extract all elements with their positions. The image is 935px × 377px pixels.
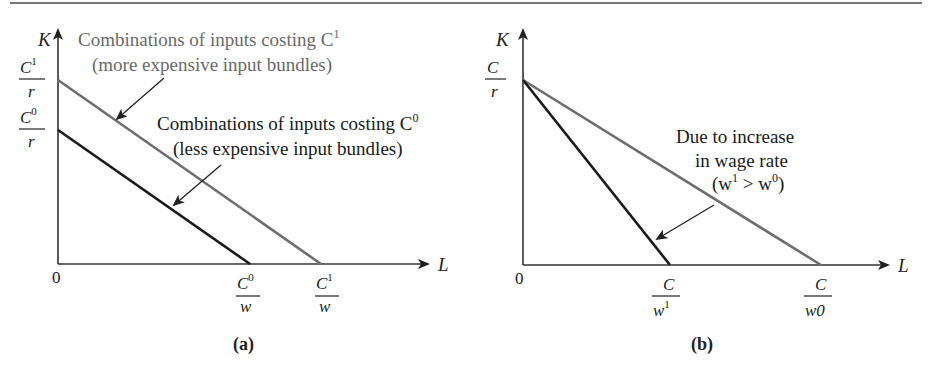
x-tick-c-over-w1: C w1 [652,275,680,320]
annotation-c1: Combinations of inputs costing C1 (more … [78,27,339,76]
svg-text:Combinations of inputs costing: Combinations of inputs costing C0 [157,111,418,134]
x-tick-c-over-w0: C w0 [804,275,832,320]
svg-text:w0: w0 [805,301,825,320]
x-axis-label: L [897,255,909,276]
svg-text:C: C [815,275,827,294]
svg-text:w: w [240,297,252,316]
svg-text:r: r [491,82,498,101]
svg-text:(w1 > w0): (w1 > w0) [712,171,784,195]
svg-text:(more expensive input bundles): (more expensive input bundles) [92,54,332,76]
svg-text:C: C [663,275,675,294]
panel-caption-b: (b) [691,334,713,355]
x-axis-label: L [437,254,449,275]
y-tick-c1-over-r: C1 r [19,55,45,101]
svg-text:C0: C0 [237,271,254,293]
svg-text:C1: C1 [20,55,37,77]
svg-text:C: C [487,58,499,77]
svg-text:w1: w1 [653,298,670,320]
annotation-c0-pointer-arrow [174,165,221,205]
x-tick-c0-over-w: C0 w [236,271,260,316]
origin-label: 0 [515,269,524,288]
origin-label: 0 [52,268,61,287]
annotation-c0: Combinations of inputs costing C0 (less … [157,111,418,160]
svg-text:in wage rate: in wage rate [695,150,788,171]
panel-caption-a: (a) [233,334,254,355]
svg-text:w: w [319,297,331,316]
isocost-line-c1 [58,80,321,264]
annotation-wage-pointer-arrow [657,205,714,239]
y-axis-label: K [37,29,52,50]
panel-a: K L 0 C1 r C0 r C0 w C1 w [19,27,449,355]
x-tick-c1-over-w: C1 w [315,271,339,316]
y-tick-c0-over-r: C0 r [19,105,45,151]
panel-b: K L 0 C r C w1 C w0 Due to increase in w… [485,29,909,355]
svg-text:C0: C0 [20,105,37,127]
y-axis-label: K [495,29,510,50]
isocost-line-w1 [523,80,670,265]
svg-text:r: r [28,82,35,101]
y-tick-c-over-r: C r [485,58,506,101]
svg-text:(less expensive input bundles): (less expensive input bundles) [173,138,403,160]
svg-text:Due to increase: Due to increase [676,126,794,147]
svg-text:r: r [28,132,35,151]
svg-text:C1: C1 [316,271,333,293]
isocost-diagram: K L 0 C1 r C0 r C0 w C1 w [0,0,935,377]
svg-text:Combinations of inputs costing: Combinations of inputs costing C1 [78,27,339,50]
